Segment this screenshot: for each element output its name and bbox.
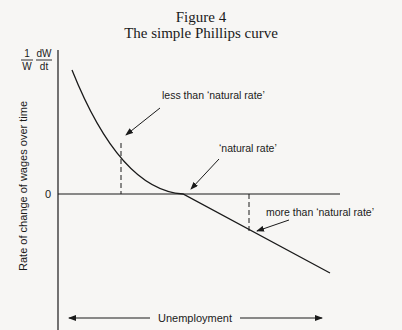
y-axis-label: Rate of change of wages over time xyxy=(17,101,29,271)
arrow-less-than xyxy=(126,108,160,135)
y-symbol-num-1: 1 xyxy=(24,48,30,59)
y-axis-symbol: 1 dW W dt xyxy=(21,48,52,72)
arrow-natural-rate xyxy=(191,159,219,189)
y-symbol-den-w: W xyxy=(22,61,32,72)
annotation-more-than: more than ‘natural rate’ xyxy=(266,206,374,218)
annotation-natural-rate: ‘natural rate’ xyxy=(219,142,277,154)
arrow-more-than xyxy=(257,220,289,231)
y-tick-zero: 0 xyxy=(45,188,51,200)
x-axis-label: Unemployment xyxy=(158,312,232,324)
annotation-less-than: less than ‘natural rate’ xyxy=(162,89,265,101)
y-symbol-num-dw: dW xyxy=(37,48,53,59)
phillips-curve-chart: 1 dW W dt Rate of change of wages over t… xyxy=(0,0,402,330)
y-symbol-den-dt: dt xyxy=(40,61,49,72)
